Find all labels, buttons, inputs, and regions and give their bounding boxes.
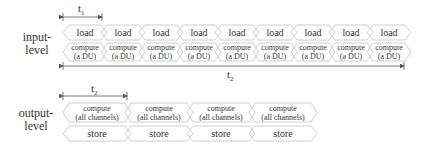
compute-all-channels-stage: compute(all channels)	[187, 103, 255, 122]
stage-label: load	[152, 27, 169, 38]
stage-label: (a DU)	[74, 52, 97, 61]
stage-label: compute	[185, 43, 213, 52]
stage-label: (a DU)	[264, 52, 287, 61]
store-stage: store	[249, 126, 317, 141]
load-stage: load	[253, 25, 297, 40]
stage-label: compute	[223, 43, 251, 52]
stage-label: load	[342, 27, 359, 38]
stage-label: (a DU)	[226, 52, 249, 61]
load-stage: load	[291, 25, 335, 40]
stage-label: compute	[207, 104, 235, 113]
stage-label: (all channels)	[199, 113, 243, 122]
compute-du-stage: compute(a DU)	[291, 43, 335, 61]
compute-du-stage: compute(a DU)	[329, 43, 373, 61]
compute-du-stage: compute(a DU)	[215, 43, 259, 61]
stage-label: compute	[337, 43, 365, 52]
input-compute-row: compute(a DU)compute(a DU)compute(a DU)c…	[63, 43, 411, 61]
compute-du-stage: compute(a DU)	[367, 43, 411, 61]
load-stage: load	[63, 25, 107, 40]
output-compute-row: compute(all channels)compute(all channel…	[63, 103, 317, 122]
stage-label: load	[304, 27, 321, 38]
stage-label: (a DU)	[188, 52, 211, 61]
store-stage: store	[63, 126, 131, 141]
output-store-row: storestorestorestore	[63, 126, 317, 141]
stage-label: compute	[261, 43, 289, 52]
stage-label: (a DU)	[150, 52, 173, 61]
stage-label: compute	[71, 43, 99, 52]
compute-du-stage: compute(a DU)	[139, 43, 183, 61]
pipeline-diagram: loadloadloadloadloadloadloadloadload com…	[0, 0, 426, 150]
load-stage: load	[367, 25, 411, 40]
load-stage: load	[101, 25, 145, 40]
load-stage: load	[177, 25, 221, 40]
stage-label: compute	[109, 43, 137, 52]
stage-label: (all channels)	[261, 113, 305, 122]
stage-label: (a DU)	[112, 52, 135, 61]
stage-label: store	[273, 128, 293, 139]
input-load-row: loadloadloadloadloadloadloadloadload	[63, 25, 411, 40]
store-stage: store	[125, 126, 193, 141]
stage-label: compute	[145, 104, 173, 113]
stage-label: store	[149, 128, 169, 139]
stage-label: (all channels)	[75, 113, 119, 122]
stage-label: load	[190, 27, 207, 38]
compute-all-channels-stage: compute(all channels)	[63, 103, 131, 122]
stage-label: compute	[375, 43, 403, 52]
stage-label: load	[76, 27, 93, 38]
compute-du-stage: compute(a DU)	[177, 43, 221, 61]
stage-label: (a DU)	[340, 52, 363, 61]
stage-label: compute	[269, 104, 297, 113]
stage-label: load	[380, 27, 397, 38]
stage-label: store	[87, 128, 107, 139]
stage-label: load	[114, 27, 131, 38]
stage-label: load	[266, 27, 283, 38]
compute-all-channels-stage: compute(all channels)	[249, 103, 317, 122]
load-stage: load	[329, 25, 373, 40]
compute-du-stage: compute(a DU)	[101, 43, 145, 61]
compute-du-stage: compute(a DU)	[63, 43, 107, 61]
compute-du-stage: compute(a DU)	[253, 43, 297, 61]
stage-label: load	[228, 27, 245, 38]
stage-label: (a DU)	[302, 52, 325, 61]
stage-label: (all channels)	[137, 113, 181, 122]
stage-label: compute	[147, 43, 175, 52]
load-stage: load	[139, 25, 183, 40]
stage-label: (a DU)	[378, 52, 401, 61]
load-stage: load	[215, 25, 259, 40]
stage-label: compute	[83, 104, 111, 113]
stage-label: store	[211, 128, 231, 139]
stage-label: compute	[299, 43, 327, 52]
store-stage: store	[187, 126, 255, 141]
compute-all-channels-stage: compute(all channels)	[125, 103, 193, 122]
